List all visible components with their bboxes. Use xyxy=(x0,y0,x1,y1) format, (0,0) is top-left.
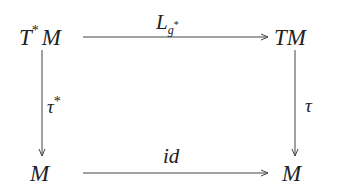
right-arrow-label: τ xyxy=(305,96,312,115)
node-tail: M xyxy=(42,25,61,50)
node-tangent-bundle: TM xyxy=(274,26,306,49)
label-main: L xyxy=(156,10,168,34)
label-main: τ xyxy=(47,96,54,117)
node-sup: * xyxy=(32,23,39,38)
bottom-arrow-label: id xyxy=(163,146,179,167)
label-sup: * xyxy=(54,94,61,109)
node-cotangent-bundle: T*M xyxy=(19,26,61,49)
node-manifold-left: M xyxy=(30,162,49,185)
top-arrow-label: Lg* xyxy=(156,12,179,33)
label-sup: * xyxy=(174,19,179,30)
node-base: T xyxy=(19,25,32,50)
node-manifold-right: M xyxy=(282,162,301,185)
left-arrow-label: τ* xyxy=(47,97,61,116)
label-sub: g xyxy=(168,23,174,37)
